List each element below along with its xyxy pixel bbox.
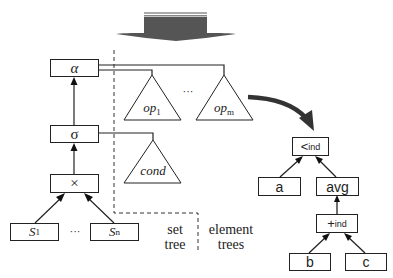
alpha-symbol: α bbox=[71, 60, 79, 77]
attr-b-label: b bbox=[306, 254, 314, 270]
cond-label: cond bbox=[130, 163, 176, 179]
set-tree-label: set tree bbox=[155, 222, 195, 252]
op1-label: op1 bbox=[132, 100, 172, 117]
down-arrow-icon bbox=[116, 12, 236, 41]
cross-product-node: × bbox=[50, 174, 99, 193]
expand-arrow-icon bbox=[248, 97, 314, 131]
opm-base: op bbox=[214, 100, 227, 115]
opm-sub: m bbox=[227, 107, 234, 117]
op-ellipsis: ··· bbox=[178, 84, 198, 99]
leaf-sn-sub: n bbox=[116, 227, 121, 237]
set-tree-label-line2: tree bbox=[155, 237, 195, 252]
op1-base: op bbox=[143, 100, 156, 115]
query-tree-diagram: α σ × S1 ··· Sn op1 ··· opm cond set tre… bbox=[0, 0, 393, 278]
plus-sub: ind bbox=[335, 219, 347, 229]
less-sub: ind bbox=[308, 142, 320, 152]
sigma-symbol: σ bbox=[70, 126, 78, 143]
opm-label: opm bbox=[204, 100, 244, 117]
project-alpha-node: α bbox=[50, 59, 99, 77]
attr-b-node: b bbox=[289, 253, 331, 271]
leaf-s1-sub: 1 bbox=[36, 227, 41, 237]
plus-ind-node: +ind bbox=[316, 214, 358, 233]
element-trees-label-line2: trees bbox=[202, 237, 260, 252]
element-trees-label: element trees bbox=[202, 222, 260, 252]
leaf-sn-node: Sn bbox=[90, 223, 139, 241]
leaf-ellipsis: ··· bbox=[62, 224, 88, 239]
attr-c-label: c bbox=[363, 254, 370, 270]
less-ind-node: <ind bbox=[292, 137, 329, 156]
attr-a-node: a bbox=[258, 177, 301, 196]
cross-symbol: × bbox=[70, 175, 78, 192]
avg-label: avg bbox=[326, 179, 349, 195]
leaf-s1-node: S1 bbox=[10, 223, 59, 241]
avg-node: avg bbox=[316, 177, 359, 196]
set-tree-label-line1: set bbox=[155, 222, 195, 237]
attr-c-node: c bbox=[345, 253, 387, 271]
less-symbol: < bbox=[301, 139, 309, 154]
attr-a-label: a bbox=[276, 179, 284, 195]
element-trees-label-line1: element bbox=[202, 222, 260, 237]
select-sigma-node: σ bbox=[50, 125, 99, 143]
plus-symbol: + bbox=[327, 216, 335, 231]
op1-sub: 1 bbox=[156, 107, 161, 117]
